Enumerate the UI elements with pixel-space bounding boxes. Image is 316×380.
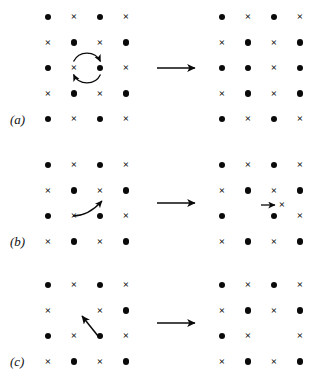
cross-icon: × [122, 278, 131, 291]
cross-icon: × [296, 329, 305, 342]
filled-circle-icon [245, 307, 251, 313]
filled-circle-icon [97, 333, 103, 339]
filled-circle-icon [97, 282, 103, 288]
cross-icon: × [218, 304, 227, 317]
cross-icon: × [218, 355, 227, 368]
filled-circle-icon [297, 358, 303, 364]
filled-circle-icon [71, 358, 77, 364]
cross-icon: × [270, 304, 279, 317]
cross-icon: × [44, 355, 53, 368]
filled-circle-icon [271, 282, 277, 288]
filled-circle-icon [219, 282, 225, 288]
filled-circle-icon [123, 358, 129, 364]
cross-icon: × [270, 355, 279, 368]
filled-circle-icon [45, 333, 51, 339]
cross-icon: × [296, 278, 305, 291]
cross-icon: × [96, 355, 105, 368]
cross-icon: × [122, 329, 131, 342]
panel-c: (c)×××××××××××××××× [0, 0, 316, 380]
filled-circle-icon [297, 307, 303, 313]
cross-icon: × [70, 329, 79, 342]
transition-arrow-icon-c [155, 315, 207, 331]
cross-icon: × [44, 304, 53, 317]
cross-icon: × [70, 278, 79, 291]
filled-circle-icon [219, 333, 225, 339]
cross-icon: × [96, 304, 105, 317]
filled-circle-icon [45, 282, 51, 288]
cross-icon: × [244, 329, 253, 342]
diagonal-arrow-icon [76, 310, 110, 340]
filled-circle-icon [245, 358, 251, 364]
cross-icon: × [244, 278, 253, 291]
panel-label-c: (c) [10, 355, 24, 368]
filled-circle-icon [123, 307, 129, 313]
diffusion-mechanism-figure: (a)×××××××××××××××××××(b)×××××××××××××××… [0, 0, 316, 380]
